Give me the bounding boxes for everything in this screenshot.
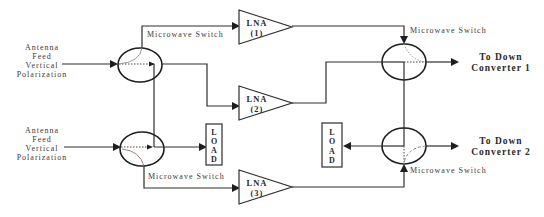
switch-label-1: Microwave Switch — [147, 30, 224, 39]
switch-label-4: Microwave Switch — [410, 166, 487, 175]
input-label-1-line-3: Vertical — [26, 61, 59, 70]
path-switch1-to-lna2 — [162, 64, 240, 110]
load-2-letter: A — [329, 147, 335, 156]
load-1: L O A D — [206, 124, 222, 165]
arrowhead-icon — [343, 142, 351, 150]
output-label-2-line-1: To Down — [479, 136, 522, 146]
input-label-1-line-2: Feed — [32, 52, 52, 61]
lna-3-name: LNA — [247, 178, 268, 188]
input-label-2-line-1: Antenna — [25, 126, 59, 135]
lna-2-name: LNA — [247, 94, 268, 104]
input-label-2-line-4: Polarization — [17, 153, 68, 162]
load-1-letter: L — [211, 128, 216, 137]
output-label-2: To Down Converter 2 — [471, 136, 531, 157]
switch-label-2: Microwave Switch — [148, 172, 225, 181]
path-lna2-to-switch3 — [292, 62, 382, 103]
input-label-1: Antenna Feed Vertical Polarization — [17, 43, 68, 79]
load-1-letter: D — [211, 155, 217, 164]
load-1-letter: O — [211, 137, 217, 146]
microwave-switch-1 — [118, 48, 162, 82]
lna-1-index: (1) — [251, 28, 264, 38]
input-label-2: Antenna Feed Vertical Polarization — [17, 126, 68, 162]
microwave-switch-2 — [120, 132, 164, 166]
load-2: L O A D — [322, 123, 342, 167]
output-label-2-line-2: Converter 2 — [471, 147, 531, 157]
lna-2: LNA (2) — [239, 86, 292, 120]
input-label-2-line-3: Vertical — [26, 144, 59, 153]
output-label-1: To Down Converter 1 — [471, 52, 531, 73]
load-2-letter: L — [329, 128, 334, 137]
lna-1: LNA (1) — [239, 10, 292, 44]
load-2-letter: O — [329, 137, 335, 146]
input-arrow-1 — [62, 60, 118, 68]
input-label-1-line-4: Polarization — [17, 70, 68, 79]
load-2-letter: D — [329, 156, 335, 165]
output-arrow-1 — [426, 58, 459, 66]
load-1-letter: A — [211, 146, 217, 155]
path-lna3-to-switch4 — [292, 164, 408, 187]
switch-label-3: Microwave Switch — [410, 26, 487, 35]
path-switch4-to-load2 — [343, 142, 382, 150]
lna-2-index: (2) — [251, 104, 264, 114]
arrowhead-icon — [147, 145, 153, 150]
arrowhead-icon — [451, 142, 459, 150]
input-label-1-line-1: Antenna — [25, 43, 59, 52]
lna-1-name: LNA — [247, 18, 268, 28]
input-arrow-2 — [64, 143, 121, 151]
path-lna1-to-switch3 — [292, 26, 408, 44]
arrowhead-icon — [110, 60, 118, 68]
output-label-1-line-2: Converter 1 — [471, 63, 531, 73]
input-label-2-line-2: Feed — [32, 135, 52, 144]
output-label-1-line-1: To Down — [479, 52, 522, 62]
arrowhead-icon — [400, 164, 408, 172]
switched-lna-block-diagram: Antenna Feed Vertical Polarization Anten… — [0, 0, 544, 217]
path-switch2-to-load1 — [154, 143, 207, 151]
lna-3-index: (3) — [251, 188, 264, 198]
arrowhead-icon — [400, 36, 408, 44]
lna-3: LNA (3) — [239, 170, 292, 204]
arrowhead-icon — [451, 58, 459, 66]
output-arrow-2 — [426, 142, 459, 150]
